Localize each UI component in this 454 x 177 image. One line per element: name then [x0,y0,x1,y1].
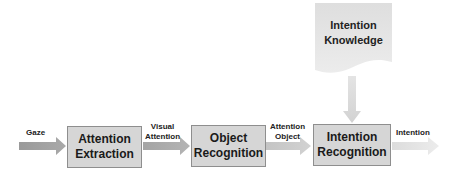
attention-object-line2: Object [270,132,305,142]
attention-extraction-line1: Attention [75,132,134,147]
object-recognition-box: Object Recognition [191,125,266,167]
object-recognition-line2: Recognition [194,146,263,161]
intention-recognition-line2: Recognition [317,145,386,160]
edge-label-attention-object: Attention Object [270,122,305,142]
diagram-canvas: Intention Knowledge Attention Extraction… [0,0,454,177]
attention-extraction-box: Attention Extraction [67,126,142,168]
visual-label-line1: Visual [145,122,180,132]
attention-object-line1: Attention [270,122,305,132]
arrow-knowledge-down [343,76,361,123]
attention-extraction-line2: Extraction [75,147,134,162]
arrow-gaze [19,137,66,155]
intention-recognition-box: Intention Recognition [313,124,391,166]
knowledge-line1: Intention [315,18,392,33]
arrow-intention-output [392,137,439,155]
edge-label-gaze: Gaze [26,128,45,138]
intention-recognition-line1: Intention [317,130,386,145]
knowledge-line2: Knowledge [315,33,392,48]
intention-knowledge-label: Intention Knowledge [315,18,392,48]
visual-label-line2: Attention [145,132,180,142]
gaze-label: Gaze [26,128,45,138]
intention-output-label: Intention [396,128,430,138]
object-recognition-line1: Object [194,131,263,146]
edge-label-visual-attention: Visual Attention [145,122,180,142]
edge-label-intention: Intention [396,128,430,138]
